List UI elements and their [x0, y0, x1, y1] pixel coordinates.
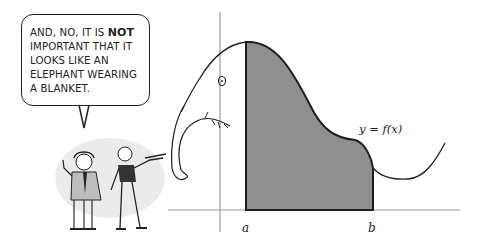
- function-label: y = f(x): [358, 122, 402, 136]
- bubble-line-2: IMPORTANT THAT IT: [30, 40, 150, 54]
- bubble-line-1: AND, NO, IT IS: [30, 27, 108, 38]
- bubble-line-4: ELEPHANT WEARING: [30, 68, 150, 82]
- trunk: [172, 106, 230, 180]
- bubble-line-3: LOOKS LIKE AN: [30, 54, 150, 68]
- bubble-tail: [79, 105, 89, 128]
- bubble-emphasis: NOT: [108, 26, 134, 39]
- curve-left: [181, 42, 246, 112]
- label-a: a: [242, 221, 249, 235]
- bubble-line-5: A BLANKET.: [30, 82, 150, 96]
- cartoon-characters: [55, 138, 166, 229]
- cartoon-canvas: y = f(x) a b: [0, 0, 477, 250]
- shaded-area: [246, 42, 373, 210]
- speech-bubble-text: AND, NO, IT IS NOT IMPORTANT THAT IT LOO…: [30, 26, 150, 96]
- eye-pupil: [221, 80, 223, 82]
- label-b: b: [368, 221, 376, 235]
- curve-right: [373, 143, 445, 179]
